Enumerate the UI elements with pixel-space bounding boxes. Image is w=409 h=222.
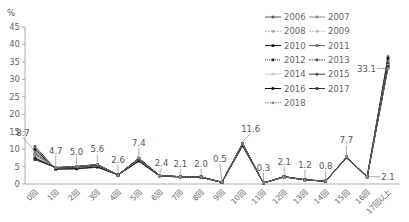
legend-item-2018[interactable]: 2018 <box>265 98 306 108</box>
y-axis: 051015202530354045 <box>9 22 25 189</box>
y-tick-label: 0 <box>15 179 20 189</box>
data-label: 0.3 <box>257 163 271 173</box>
data-label: 5.0 <box>70 147 84 157</box>
legend-item-2014[interactable]: 2014 <box>265 69 306 79</box>
legend-label: 2016 <box>284 84 306 94</box>
chart-canvas: % 051015202530354045 0回1回2回3回4回5回6回7回8回9… <box>0 0 409 222</box>
data-label: 1.2 <box>298 160 312 170</box>
legend-label: 2007 <box>328 12 350 22</box>
legend: 2006200720082009201020112012201320142015… <box>265 12 350 108</box>
data-label: 33.1 <box>357 64 376 74</box>
legend-label: 2010 <box>284 41 306 51</box>
data-label: 8.7 <box>16 128 30 138</box>
data-label: 5.6 <box>91 144 105 154</box>
x-tick-label: 4回 <box>108 188 123 203</box>
y-tick-label: 5 <box>15 162 20 172</box>
x-tick-label: 16回 <box>354 188 372 206</box>
legend-label: 2012 <box>284 55 306 65</box>
legend-label: 2013 <box>328 55 350 65</box>
legend-label: 2018 <box>284 98 306 108</box>
x-tick-label: 10回 <box>229 188 247 206</box>
x-tick-label: 8回 <box>191 188 206 203</box>
legend-item-2010[interactable]: 2010 <box>265 41 306 51</box>
legend-item-2006[interactable]: 2006 <box>265 12 306 22</box>
legend-item-2008[interactable]: 2008 <box>265 26 306 36</box>
legend-label: 2014 <box>284 69 306 79</box>
x-tick-label: 2回 <box>66 188 81 203</box>
x-tick-label: 11回 <box>250 188 268 206</box>
y-tick-label: 10 <box>9 144 20 154</box>
legend-item-2016[interactable]: 2016 <box>265 84 306 94</box>
legend-item-2012[interactable]: 2012 <box>265 55 306 65</box>
legend-item-2017[interactable]: 2017 <box>309 84 350 94</box>
x-tick-label: 6回 <box>149 188 164 203</box>
data-label: 11.6 <box>241 124 260 134</box>
data-label: 2.1 <box>381 172 395 182</box>
data-label: 2.1 <box>277 157 291 167</box>
x-tick-label: 7回 <box>170 188 185 203</box>
x-tick-label: 13回 <box>291 188 309 206</box>
y-tick-label: 40 <box>9 39 20 49</box>
legend-label: 2008 <box>284 26 306 36</box>
y-tick-label: 25 <box>9 92 20 102</box>
legend-label: 2009 <box>328 26 350 36</box>
x-tick-label: 12回 <box>271 188 289 206</box>
legend-label: 2015 <box>328 69 350 79</box>
data-label: 2.6 <box>111 155 125 165</box>
data-label: 2.1 <box>174 159 188 169</box>
x-tick-label: 15回 <box>333 188 351 206</box>
y-tick-label: 45 <box>9 22 20 32</box>
legend-label: 2006 <box>284 12 306 22</box>
line-chart: % 051015202530354045 0回1回2回3回4回5回6回7回8回9… <box>0 0 409 222</box>
x-tick-label: 9回 <box>212 188 227 203</box>
y-tick-label: 35 <box>9 57 20 67</box>
data-label: 2.4 <box>155 158 169 168</box>
legend-item-2009[interactable]: 2009 <box>309 26 350 36</box>
data-label: 0.5 <box>213 154 227 164</box>
legend-item-2007[interactable]: 2007 <box>309 12 350 22</box>
x-tick-label: 0回 <box>25 188 40 203</box>
legend-item-2013[interactable]: 2013 <box>309 55 350 65</box>
legend-label: 2017 <box>328 84 350 94</box>
x-tick-label: 14回 <box>312 188 330 206</box>
data-label: 2.0 <box>194 159 208 169</box>
x-tick-label: 3回 <box>87 188 102 203</box>
x-tick-label: 5回 <box>129 188 144 203</box>
data-label: 4.7 <box>49 146 63 156</box>
legend-label: 2011 <box>328 41 350 51</box>
x-tick-label: 1回 <box>45 188 60 203</box>
data-label: 7.7 <box>340 135 354 145</box>
legend-item-2015[interactable]: 2015 <box>309 69 350 79</box>
data-annotations: 8.74.75.05.62.67.42.42.12.00.511.60.32.1… <box>16 64 395 182</box>
legend-item-2011[interactable]: 2011 <box>309 41 350 51</box>
y-axis-unit-label: % <box>7 8 15 18</box>
data-label: 7.4 <box>132 138 146 148</box>
x-axis: 0回1回2回3回4回5回6回7回8回9回10回11回12回13回14回15回16… <box>25 184 400 216</box>
y-tick-label: 20 <box>9 109 20 119</box>
data-label: 0.8 <box>319 161 333 171</box>
y-tick-label: 30 <box>9 74 20 84</box>
